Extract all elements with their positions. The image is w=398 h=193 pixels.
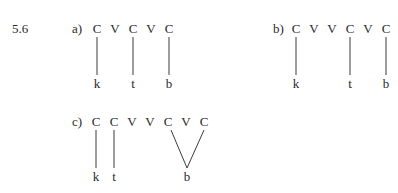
association-lines	[0, 0, 398, 193]
association-line	[187, 130, 204, 168]
association-line	[171, 130, 187, 168]
